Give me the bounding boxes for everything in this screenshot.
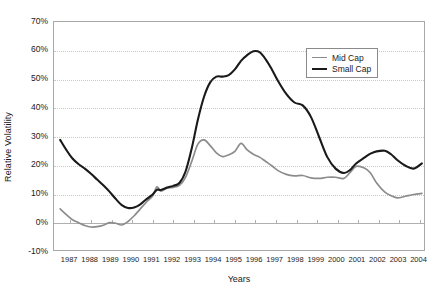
legend-swatch-mid-cap	[312, 57, 327, 58]
chart-legend: Mid Cap Small Cap	[306, 48, 378, 78]
y-axis-title: Relative Volatility	[0, 0, 16, 294]
x-axis-title: Years	[53, 274, 425, 284]
legend-item-small-cap: Small Cap	[312, 63, 371, 74]
legend-label-small-cap: Small Cap	[332, 64, 371, 74]
legend-swatch-small-cap	[312, 68, 327, 70]
x-tick-label: 2004	[406, 256, 432, 264]
volatility-line-chart: Relative Volatility 70%60%50%40%30%20%10…	[0, 0, 443, 294]
line-mid-cap	[60, 140, 422, 227]
legend-item-mid-cap: Mid Cap	[312, 52, 371, 63]
legend-label-mid-cap: Mid Cap	[332, 53, 364, 63]
